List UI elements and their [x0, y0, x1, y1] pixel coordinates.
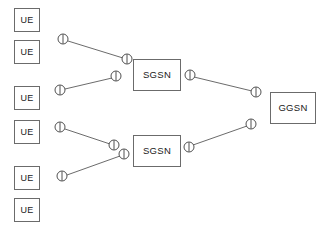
marker-sgsn1-in-lower-icon [111, 71, 121, 81]
link-ue2-to-sgsn1 [68, 41, 123, 58]
marker-sgsn1-in-upper-icon [122, 54, 132, 64]
marker-sgsn2-in-upper-icon [109, 140, 119, 150]
link-sgsn1-to-ggsn [194, 77, 252, 91]
marker-ggsn-in-upper-icon [251, 87, 261, 97]
link-ue5-to-sgsn2 [67, 156, 120, 175]
link-ue3-to-sgsn1 [65, 78, 112, 89]
link-sgsn2-to-ggsn [193, 126, 247, 145]
marker-ue4-access-icon [55, 122, 65, 132]
node-ue-3[interactable]: UE [14, 86, 40, 110]
link-ue4-to-sgsn2 [65, 129, 110, 144]
node-ue-1[interactable]: UE [14, 8, 40, 32]
node-ue-6-label: UE [20, 206, 33, 215]
marker-sgsn2-in-lower-icon [119, 149, 129, 159]
marker-ue3-access-icon [55, 85, 65, 95]
node-ue-6[interactable]: UE [14, 198, 40, 222]
marker-ue2-access-icon [58, 34, 68, 44]
node-ue-1-label: UE [20, 16, 33, 25]
marker-ue5-access-icon [57, 171, 67, 181]
marker-sgsn2-out-icon [184, 142, 194, 152]
node-ggsn-1[interactable]: GGSN [270, 92, 316, 124]
node-sgsn-2[interactable]: SGSN [133, 135, 181, 167]
node-ue-4-label: UE [20, 128, 33, 137]
node-sgsn-1-label: SGSN [143, 70, 171, 80]
node-ue-3-label: UE [20, 94, 33, 103]
node-sgsn-2-label: SGSN [143, 146, 171, 156]
node-ue-5[interactable]: UE [14, 166, 40, 190]
node-sgsn-1[interactable]: SGSN [133, 59, 181, 91]
node-ue-4[interactable]: UE [14, 120, 40, 144]
marker-ggsn-in-lower-icon [246, 119, 256, 129]
node-ggsn-1-label: GGSN [278, 103, 307, 113]
node-ue-2[interactable]: UE [14, 40, 40, 64]
node-ue-2-label: UE [20, 48, 33, 57]
network-topology-diagram: UE UE UE UE UE UE SGSN SGSN GGSN [0, 0, 329, 232]
node-ue-5-label: UE [20, 174, 33, 183]
marker-sgsn1-out-icon [185, 70, 195, 80]
